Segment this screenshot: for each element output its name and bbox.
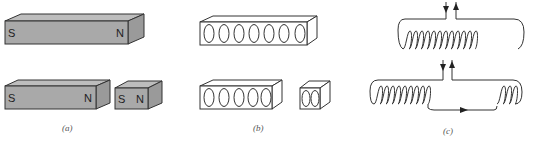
broken-loop-bar-short bbox=[300, 81, 330, 109]
south-pole-label: S bbox=[118, 93, 125, 105]
north-pole-label: N bbox=[116, 27, 124, 39]
panel-a: S N S N S N bbox=[5, 14, 162, 109]
south-pole-label: S bbox=[8, 27, 15, 39]
solenoid-split bbox=[370, 60, 522, 113]
north-pole-label: N bbox=[84, 92, 92, 104]
broken-loop-bar-long bbox=[200, 80, 282, 109]
current-in-arrow-icon bbox=[443, 6, 449, 13]
north-pole-label: N bbox=[136, 93, 144, 105]
figure-canvas: S N S N S N bbox=[0, 0, 534, 144]
broken-short-piece: S N bbox=[115, 81, 162, 109]
current-out-arrow-icon bbox=[449, 61, 455, 68]
current-out-arrow-icon bbox=[453, 3, 459, 10]
panel-c bbox=[370, 2, 524, 113]
panel-b bbox=[200, 16, 330, 109]
full-loop-bar bbox=[200, 16, 317, 45]
current-in-arrow-icon bbox=[440, 64, 446, 71]
solenoid-full bbox=[398, 2, 524, 49]
broken-long-piece: S N bbox=[5, 80, 110, 109]
current-right-arrow-icon bbox=[460, 107, 468, 113]
caption-a: (a) bbox=[62, 123, 73, 133]
figure-drawing: S N S N S N bbox=[0, 0, 534, 144]
caption-b: (b) bbox=[253, 123, 264, 133]
full-bar-magnet: S N bbox=[5, 14, 144, 44]
south-pole-label: S bbox=[8, 92, 15, 104]
caption-c: (c) bbox=[443, 126, 453, 136]
